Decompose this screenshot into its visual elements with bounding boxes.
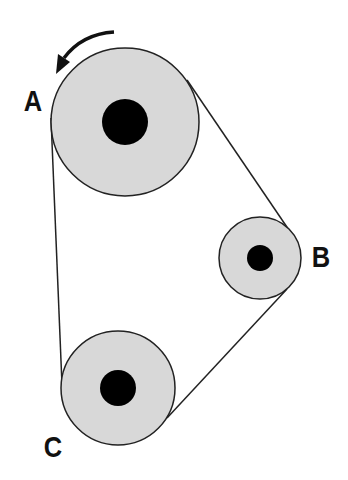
diagram-svg: [0, 0, 348, 480]
pulley-b: [219, 217, 301, 299]
pulley-a-hub: [102, 99, 148, 145]
label-b: B: [312, 240, 330, 274]
label-c: C: [44, 430, 62, 464]
belt-segment-a-b: [187, 80, 293, 236]
pulley-b-hub: [247, 245, 273, 271]
pulley-c: [61, 331, 175, 445]
pulley-a: [51, 48, 199, 196]
pulley-diagram: A B C: [0, 0, 348, 480]
pulley-c-hub: [100, 370, 136, 406]
label-a: A: [24, 84, 42, 118]
belt-segment-b-c: [167, 289, 287, 418]
